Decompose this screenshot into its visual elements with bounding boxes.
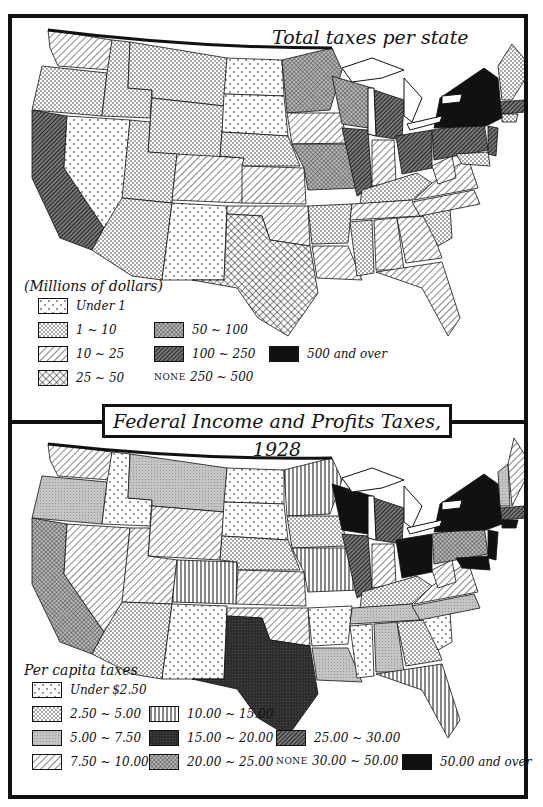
legend-item-20-00-25-00: 20.00 ~ 25.00: [149, 754, 273, 770]
state-new-jersey: [488, 126, 498, 156]
swatch-fine-crosshatch: [154, 322, 184, 338]
state-south-dakota: [222, 502, 288, 540]
legend-item-250-500: NONE 250 ~ 500: [154, 370, 254, 384]
state-north-dakota: [224, 468, 284, 504]
per-capita-legend: Per capita taxes Under $2.50 2.50 ~ 5.00…: [24, 662, 524, 792]
state-indiana: [372, 140, 396, 186]
swatch-diagonal-lines: [32, 754, 62, 770]
legend-item-1-10: 1 ~ 10: [38, 322, 117, 338]
state-kansas: [242, 166, 306, 204]
swatch-solid-black: [402, 754, 432, 770]
state-south-dakota: [222, 94, 288, 136]
state-massachusetts: [500, 506, 524, 520]
state-massachusetts: [500, 100, 524, 114]
swatch-crosshatch: [38, 370, 68, 386]
legend-item-2-50-5-00: 2.50 ~ 5.00: [32, 706, 141, 722]
lake-huron: [404, 78, 422, 122]
legend-item-100-250: 100 ~ 250: [154, 346, 256, 362]
state-oregon: [32, 476, 107, 524]
swatch-dense-diagonal-dark: [276, 730, 306, 746]
legend-item-under-2-50: Under $2.50: [32, 682, 147, 698]
state-arkansas: [308, 606, 352, 646]
swatch-solid-black: [269, 346, 299, 362]
total-taxes-map-panel: Total taxes per state: [12, 18, 524, 418]
swatch-fine-crosshatch: [149, 754, 179, 770]
legend-item-5-00-7-50: 5.00 ~ 7.50: [32, 730, 141, 746]
state-wyoming: [148, 98, 224, 158]
state-connecticut-ri: [502, 520, 518, 528]
legend-heading: (Millions of dollars): [24, 278, 424, 294]
legend-item-50-100: 50 ~ 100: [154, 322, 248, 338]
state-indiana: [372, 544, 396, 588]
state-kansas: [236, 570, 306, 606]
state-colorado: [172, 154, 244, 203]
lake-ontario: [442, 94, 462, 104]
legend-item-50-00-and-over: 50.00 and over: [402, 754, 531, 770]
swatch-diagonal-lines: [38, 346, 68, 362]
state-colorado: [172, 560, 237, 604]
legend-item-10-25: 10 ~ 25: [38, 346, 124, 362]
lake-superior: [342, 468, 404, 492]
per-capita-map-panel: Per capita taxes Under $2.50 2.50 ~ 5.00…: [12, 424, 524, 795]
swatch-sparse-dots: [32, 682, 62, 698]
legend-item-25-50: 25 ~ 50: [38, 370, 124, 386]
swatch-light-gray: [32, 730, 62, 746]
legend-heading: Per capita taxes: [24, 662, 524, 678]
state-arkansas: [308, 204, 352, 244]
lake-ontario: [442, 500, 462, 510]
state-ohio: [396, 130, 432, 174]
swatch-dark-gray: [149, 730, 179, 746]
swatch-dense-dots: [32, 706, 62, 722]
legend-item-10-00-15-00: 10.00 ~ 15.00: [149, 706, 273, 722]
state-oregon: [32, 66, 107, 116]
none-marker: NONE: [276, 756, 306, 766]
state-michigan: [374, 90, 404, 140]
state-michigan: [374, 498, 404, 544]
state-iowa: [287, 516, 346, 548]
state-new-mexico: [162, 203, 227, 280]
state-north-dakota: [224, 58, 284, 96]
lake-superior: [342, 58, 404, 82]
state-maine: [508, 438, 524, 506]
swatch-vertical-lines: [149, 706, 179, 722]
state-connecticut: [502, 114, 518, 122]
lake-huron: [404, 486, 422, 528]
lake-michigan: [368, 88, 376, 136]
legend-item-15-00-20-00: 15.00 ~ 20.00: [149, 730, 273, 746]
state-new-jersey: [488, 530, 498, 560]
state-ohio: [396, 534, 432, 578]
swatch-dense-dots: [38, 322, 68, 338]
swatch-dense-diagonal-dark: [154, 346, 184, 362]
legend-item-500-and-over: 500 and over: [269, 346, 387, 362]
swatch-sparse-dots: [38, 298, 68, 314]
none-marker: NONE: [154, 372, 184, 382]
total-taxes-legend: (Millions of dollars) Under 1 1 ~ 10 10 …: [24, 278, 424, 418]
state-iowa: [287, 113, 346, 144]
legend-item-25-00-30-00: 25.00 ~ 30.00: [276, 730, 400, 746]
main-title: Federal Income and Profits Taxes, 1928: [102, 404, 452, 438]
state-new-england-north: [498, 44, 524, 100]
lake-michigan: [368, 496, 376, 540]
state-wyoming: [148, 506, 224, 560]
legend-item-7-50-10-00: 7.50 ~ 10.00: [32, 754, 149, 770]
legend-item-30-00-50-00: NONE 30.00 ~ 50.00: [276, 754, 398, 768]
legend-item-under-1: Under 1: [38, 298, 126, 314]
